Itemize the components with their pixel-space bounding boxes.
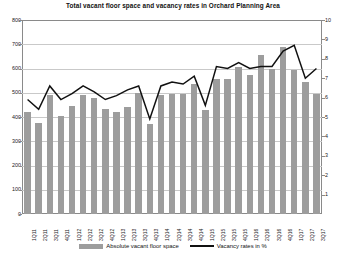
- legend-bar-label: Absolute vacant floor space: [106, 243, 178, 249]
- vacancy-rate-line: [22, 20, 322, 214]
- x-tick-label: 1Q16: [254, 229, 259, 241]
- x-tick-label: 1Q17: [299, 229, 304, 241]
- y-tick-label-right: 1: [325, 192, 343, 197]
- x-tick-label: 3Q13: [143, 229, 148, 241]
- y-tick-label-right: 2: [325, 173, 343, 178]
- y-tick-mark-right: [322, 175, 325, 176]
- y-tick-label-left: 100: [1, 187, 21, 192]
- line-series: [22, 20, 322, 214]
- x-tick-label: 2Q13: [132, 229, 137, 241]
- y-tick-label-left: 700: [1, 42, 21, 47]
- legend-line-swatch: [190, 245, 214, 247]
- y-tick-label-left: 0: [1, 212, 21, 217]
- x-tick-label: 4Q12: [110, 229, 115, 241]
- x-tick-label: 3Q12: [99, 229, 104, 241]
- y-tick-label-right: 7: [325, 76, 343, 81]
- vacancy-rate-polyline: [28, 45, 317, 119]
- x-tick-label: 4Q16: [288, 229, 293, 241]
- legend-line-label: Vacancy rates in %: [217, 243, 267, 249]
- x-tick-label: 2Q11: [43, 229, 48, 241]
- y-tick-mark-right: [322, 39, 325, 40]
- y-tick-mark-right: [322, 195, 325, 196]
- x-tick-label: 2Q14: [177, 229, 182, 241]
- y-tick-label-left: 500: [1, 90, 21, 95]
- chart-title: Total vacant floor space and vacancy rat…: [0, 1, 346, 10]
- x-tick-label: 1Q15: [210, 229, 215, 241]
- y-tick-mark-right: [322, 59, 325, 60]
- x-tick-label: 4Q15: [243, 229, 248, 241]
- legend-item-line: Vacancy rates in %: [190, 243, 267, 249]
- y-tick-label-left: 600: [1, 66, 21, 71]
- y-tick-label-left: 800: [1, 18, 21, 23]
- x-tick-label: 1Q11: [32, 229, 37, 241]
- x-tick-label: 1Q13: [121, 229, 126, 241]
- y-tick-label-right: 3: [325, 153, 343, 158]
- x-tick-label: 1Q14: [165, 229, 170, 241]
- x-tick-label: 2Q12: [88, 229, 93, 241]
- x-tick-label: 4Q13: [154, 229, 159, 241]
- y-tick-label-right: 4: [325, 134, 343, 139]
- x-tick-label: 3Q11: [54, 229, 59, 241]
- y-tick-label-right: 6: [325, 95, 343, 100]
- x-tick-label: 4Q11: [65, 229, 70, 241]
- y-tick-mark-right: [322, 156, 325, 157]
- x-tick-label: 2Q16: [265, 229, 270, 241]
- x-tick-label: 3Q15: [232, 229, 237, 241]
- y-tick-label-left: 300: [1, 139, 21, 144]
- chart-container: Total vacant floor space and vacancy rat…: [0, 0, 346, 259]
- y-tick-label-right: 8: [325, 56, 343, 61]
- y-tick-mark-right: [322, 78, 325, 79]
- y-tick-mark-right: [322, 98, 325, 99]
- x-tick-label: 2Q15: [221, 229, 226, 241]
- legend-item-bars: Absolute vacant floor space: [79, 243, 178, 249]
- y-tick-label-right: 10: [325, 18, 343, 23]
- x-tick-label: 3Q16: [277, 229, 282, 241]
- y-tick-label-left: 400: [1, 115, 21, 120]
- x-tick-label: 3Q17: [321, 229, 326, 241]
- y-tick-mark-right: [322, 136, 325, 137]
- x-tick-label: 2Q17: [310, 229, 315, 241]
- x-tick-label: 1Q12: [77, 229, 82, 241]
- y-tick-mark-right: [322, 20, 325, 21]
- y-tick-mark-right: [322, 117, 325, 118]
- legend-bar-swatch: [79, 244, 103, 249]
- x-tick-label: 4Q14: [199, 229, 204, 241]
- x-tick-label: 3Q14: [188, 229, 193, 241]
- x-axis-labels: 1Q112Q113Q114Q111Q122Q123Q124Q121Q132Q13…: [22, 215, 322, 241]
- y-tick-label-right: 5: [325, 115, 343, 120]
- y-tick-label-left: 200: [1, 163, 21, 168]
- y-tick-label-right: 9: [325, 37, 343, 42]
- chart-legend: Absolute vacant floor space Vacancy rate…: [0, 243, 346, 249]
